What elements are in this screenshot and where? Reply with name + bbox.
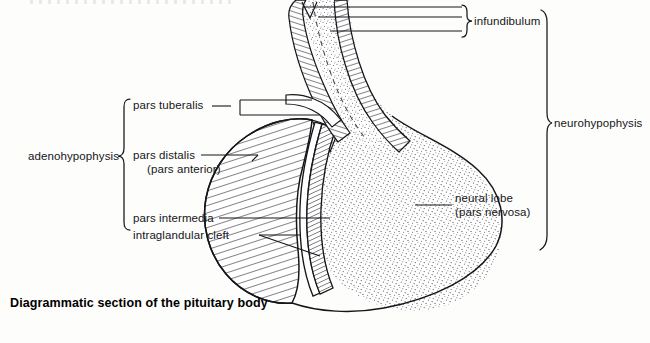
label-pars-intermedia: pars intermedia — [133, 212, 214, 226]
figure-caption: Diagrammatic section of the pituitary bo… — [10, 296, 268, 310]
pars-distalis-shape — [205, 119, 312, 303]
label-infundibulum: infundibulum — [474, 15, 540, 29]
label-pars-distalis: pars distalis — [133, 149, 195, 163]
label-neurohypophysis: neurohypophysis — [554, 117, 642, 131]
label-pars-nervosa: (pars nervosa) — [455, 206, 531, 220]
brace-adenohypophysis — [118, 99, 130, 230]
label-pars-tuberalis: pars tuberalis — [133, 99, 203, 113]
gland-body — [205, 0, 502, 311]
pituitary-diagram — [0, 0, 650, 343]
brace-neurohypophysis — [540, 10, 552, 250]
brace-infundibulum — [462, 5, 472, 37]
label-pars-anterior: (pars anterior) — [147, 163, 221, 177]
label-neural-lobe: neural lobe — [455, 192, 513, 206]
label-intraglandular-cleft: intraglandular cleft — [133, 229, 229, 243]
label-adenohypophysis: adenohypophysis — [28, 150, 119, 164]
figure-page: adenohypophysis pars tuberalis pars dist… — [0, 0, 650, 343]
